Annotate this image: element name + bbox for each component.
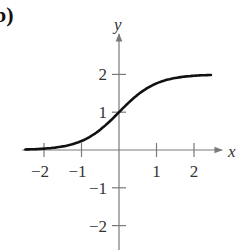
x-tick-label: −1: [68, 162, 86, 181]
y-tick-label: −1: [89, 179, 107, 198]
y-tick-label: −2: [89, 217, 107, 236]
x-tick-label: −2: [31, 162, 49, 181]
x-axis-label: x: [227, 142, 236, 161]
chart-plot: −2−112 −2−112 x y: [0, 0, 246, 252]
x-tick-label: 2: [190, 162, 199, 181]
x-tick-label: 1: [152, 162, 161, 181]
logistic-curve: [25, 75, 211, 150]
y-axis-label: y: [112, 15, 122, 34]
y-tick-label: 1: [99, 103, 108, 122]
y-tick-label: 2: [99, 65, 108, 84]
